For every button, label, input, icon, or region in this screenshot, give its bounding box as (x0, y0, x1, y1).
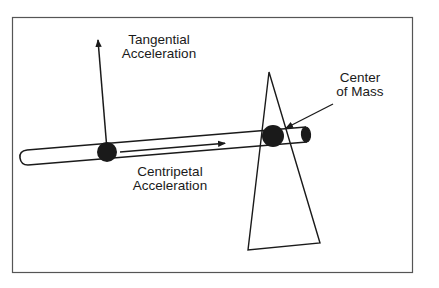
outer-mass (97, 142, 117, 162)
centripetal-label-line2: Acceleration (128, 179, 212, 193)
tangential-label-line2: Acceleration (110, 47, 208, 61)
com-label-line2: of Mass (330, 85, 390, 99)
center-of-mass-label: Center of Mass (330, 71, 390, 99)
com-label-line1: Center (330, 71, 390, 85)
tangential-acceleration-arrow (98, 40, 107, 150)
centripetal-label-line1: Centripetal (128, 165, 212, 179)
cone-pivot (248, 72, 320, 250)
tangential-acceleration-label: Tangential Acceleration (110, 33, 208, 61)
center-mass (262, 125, 284, 147)
diagram-canvas (0, 0, 439, 288)
center-of-mass-pointer (286, 104, 333, 128)
tangential-label-line1: Tangential (110, 33, 208, 47)
centripetal-acceleration-label: Centripetal Acceleration (128, 165, 212, 193)
